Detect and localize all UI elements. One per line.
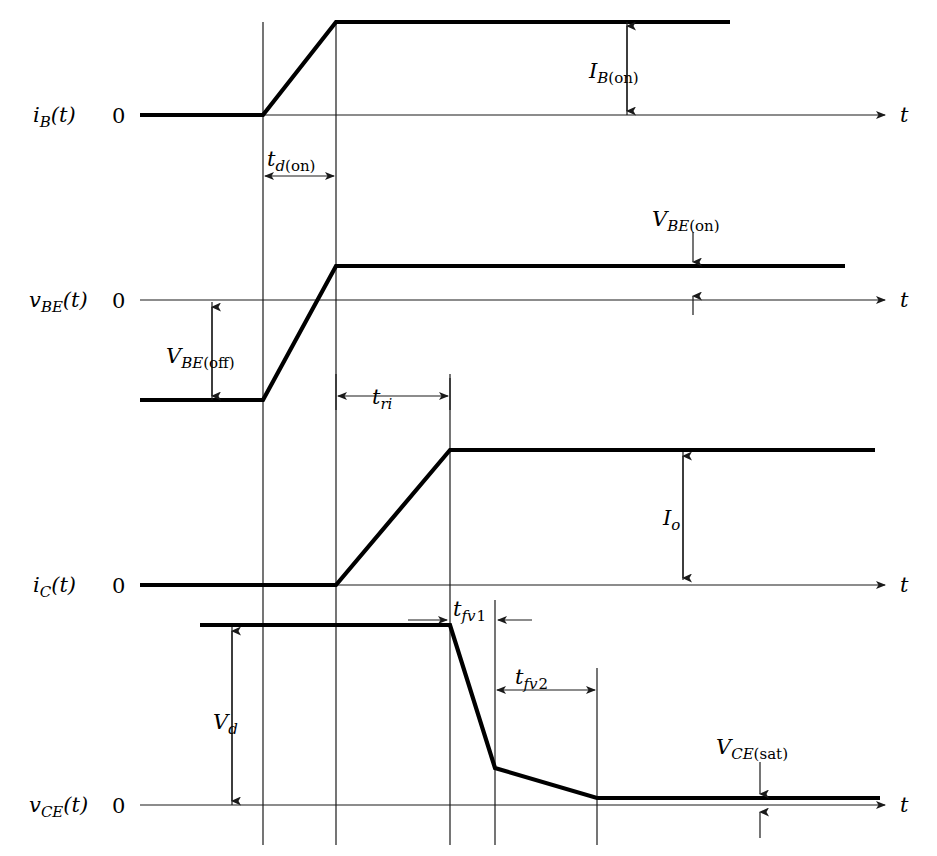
- vbe-off-label: VBE(off): [166, 344, 235, 372]
- vce-zero-label: 0: [112, 794, 125, 818]
- vd-label: Vd: [213, 710, 238, 738]
- tri-label: tri: [372, 385, 393, 413]
- ib-axis-label: t: [900, 103, 909, 127]
- signal-ic: t 0 iC(t) Io: [33, 450, 909, 601]
- tfv2-label: tfv2: [515, 665, 548, 693]
- vce-waveform: [200, 625, 880, 798]
- vce-sat-label: VCE(sat): [716, 735, 788, 763]
- signal-ib: t 0 iB(t) IB(on): [33, 22, 909, 131]
- ic-waveform: [140, 450, 875, 585]
- waveform-svg: t 0 iB(t) IB(on) td(on) t 0 vBE(t) VBE(o…: [0, 0, 937, 856]
- interval-tfv2: tfv2: [497, 665, 595, 693]
- io-label: Io: [662, 506, 680, 534]
- td-on-label: td(on): [267, 147, 315, 175]
- ib-zero-label: 0: [112, 104, 125, 128]
- vbe-axis-label: t: [900, 288, 909, 312]
- vbe-waveform: [140, 266, 845, 400]
- vce-signal-label: vCE(t): [29, 793, 88, 821]
- interval-tfv1: tfv1: [408, 597, 532, 625]
- ib-signal-label: iB(t): [33, 103, 76, 131]
- vbe-signal-label: vBE(t): [29, 288, 88, 316]
- interval-td-on: td(on): [265, 147, 334, 176]
- vce-axis-label: t: [900, 793, 909, 817]
- ic-zero-label: 0: [112, 574, 125, 598]
- interval-tri: tri: [336, 374, 450, 413]
- vbe-zero-label: 0: [112, 289, 125, 313]
- ib-waveform: [140, 22, 730, 115]
- tfv1-label: tfv1: [453, 597, 486, 625]
- gridlines: [263, 22, 597, 845]
- ib-on-annotation-label: IB(on): [588, 59, 639, 87]
- ic-signal-label: iC(t): [33, 573, 76, 601]
- signal-vce: t 0 vCE(t) Vd VCE(sat): [29, 625, 909, 838]
- signal-vbe: t 0 vBE(t) VBE(off) VBE(on): [29, 207, 909, 400]
- ic-axis-label: t: [900, 573, 909, 597]
- vbe-on-label: VBE(on): [652, 207, 720, 235]
- switching-waveform-figure: t 0 iB(t) IB(on) td(on) t 0 vBE(t) VBE(o…: [0, 0, 937, 856]
